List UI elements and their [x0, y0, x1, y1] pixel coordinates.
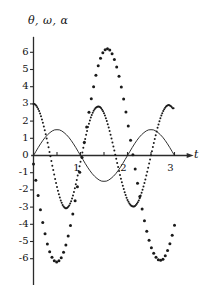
y-tick-label: 4	[4, 80, 29, 91]
y-tick-label: 1	[4, 132, 29, 143]
y-tick-label: 2	[4, 115, 29, 126]
y-tick-label: 5	[4, 63, 29, 74]
y-tick-label: -6	[4, 252, 29, 263]
y-tick-label: -4	[4, 218, 29, 229]
y-tick-label: -1	[4, 166, 29, 177]
x-tick-label: 2	[116, 162, 132, 173]
y-tick-label: -5	[4, 235, 29, 246]
y-tick-label: 0	[4, 149, 29, 160]
y-tick-label: -2	[4, 183, 29, 194]
chart-figure: θ, ω, α t -6-5-4-3-2-10123456123	[0, 0, 213, 291]
y-tick-label: 6	[4, 46, 29, 57]
x-tick-label: 1	[69, 162, 85, 173]
y-tick-label: 3	[4, 97, 29, 108]
y-tick-label: -3	[4, 201, 29, 212]
x-tick-label: 3	[163, 162, 179, 173]
plot-area	[0, 0, 213, 291]
